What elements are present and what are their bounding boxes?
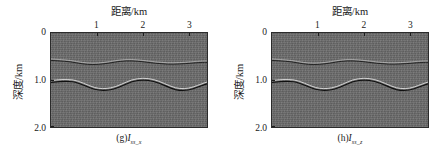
x-tick-label: 1 xyxy=(315,19,320,31)
deep-reflector-highlight xyxy=(51,78,207,88)
figure-panel-row: 距离/km 1 2 3 深度/km 0 1.0 2.0 xyxy=(0,0,443,159)
x-tick-mark xyxy=(364,33,365,36)
y-tick-label: 1.0 xyxy=(34,75,46,86)
panel-caption-h: (h)Iss_z xyxy=(271,132,429,149)
x-tick-label: 2 xyxy=(141,19,146,31)
panel-caption-g: (g)Iss_x xyxy=(50,132,208,149)
x-tick-label: 3 xyxy=(408,19,413,31)
x-tick-mark xyxy=(189,33,190,36)
x-axis-title: 距离/km xyxy=(270,6,430,18)
x-tick-mark xyxy=(318,33,319,36)
x-tick-mark xyxy=(410,33,411,36)
caption-subscript: ss_z xyxy=(352,139,363,145)
y-tick-mark xyxy=(272,126,275,127)
caption-index: (g) xyxy=(116,133,127,143)
x-tick-mark xyxy=(97,33,98,36)
x-tick-label-group: 1 2 3 xyxy=(271,19,429,31)
reflector-overlay xyxy=(51,33,207,127)
panel-h: 距离/km 1 2 3 深度/km 0 1.0 2.0 xyxy=(213,0,443,159)
y-tick-label: 1.0 xyxy=(255,75,267,86)
caption-index: (h) xyxy=(337,133,348,143)
x-tick-label: 3 xyxy=(187,19,192,31)
x-tick-label: 2 xyxy=(362,19,367,31)
y-tick-label-group: 0 1.0 2.0 xyxy=(243,32,269,128)
x-tick-label-group: 1 2 3 xyxy=(50,19,208,31)
y-tick-label-group: 0 1.0 2.0 xyxy=(22,32,48,128)
x-tick-label: 1 xyxy=(94,19,99,31)
seismic-section-plot-h xyxy=(271,32,429,128)
y-tick-mark xyxy=(51,126,54,127)
y-tick-label: 0 xyxy=(41,27,46,38)
x-tick-mark xyxy=(143,33,144,36)
y-tick-mark xyxy=(272,80,275,81)
y-tick-label: 2.0 xyxy=(255,123,267,134)
reflector-overlay xyxy=(272,33,428,127)
y-tick-label: 0 xyxy=(262,27,267,38)
seismic-section-plot-g xyxy=(50,32,208,128)
y-tick-mark xyxy=(51,80,54,81)
panel-g: 距离/km 1 2 3 深度/km 0 1.0 2.0 xyxy=(0,0,221,159)
y-tick-label: 2.0 xyxy=(34,123,46,134)
x-axis-title: 距离/km xyxy=(49,6,209,18)
deep-reflector-highlight xyxy=(272,78,428,88)
caption-subscript: ss_x xyxy=(131,139,142,145)
